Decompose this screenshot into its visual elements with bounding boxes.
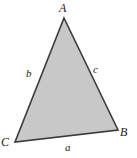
side-label-b: b <box>26 68 32 79</box>
vertex-label-b: B <box>120 126 127 138</box>
vertex-label-c: C <box>1 136 9 148</box>
triangle-figure: A B C a b c <box>0 0 137 158</box>
triangle-shape <box>0 0 137 158</box>
triangle-polygon <box>15 18 118 142</box>
side-label-c: c <box>93 64 98 75</box>
vertex-label-a: A <box>59 2 66 14</box>
side-label-a: a <box>65 142 71 153</box>
